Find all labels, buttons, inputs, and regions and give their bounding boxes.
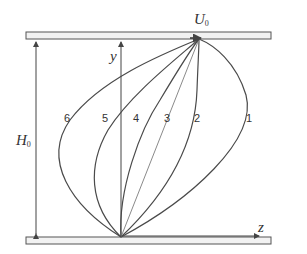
gap-height-subscript: 0 xyxy=(27,140,31,149)
profile-curve-5 xyxy=(94,39,199,237)
top-plate xyxy=(26,32,271,39)
top-velocity-label: U0 xyxy=(194,12,209,28)
z-axis-label: z xyxy=(258,220,264,235)
curve-label-2: 2 xyxy=(194,113,200,124)
y-axis-label: y xyxy=(110,49,117,64)
top-velocity-symbol: U xyxy=(194,11,205,27)
curve-label-4: 4 xyxy=(133,113,139,124)
bottom-plate xyxy=(26,237,271,244)
gap-height-symbol: H xyxy=(16,132,27,148)
diagram-svg xyxy=(0,0,307,254)
diagram-canvas: U0 y H0 z 1 2 3 4 5 6 xyxy=(0,0,307,254)
profile-curve-6 xyxy=(59,39,199,237)
curve-label-1: 1 xyxy=(246,113,252,124)
curve-label-5: 5 xyxy=(102,113,108,124)
gap-height-label: H0 xyxy=(16,133,31,149)
top-velocity-subscript: 0 xyxy=(205,19,209,28)
curve-label-3: 3 xyxy=(164,113,170,124)
curve-label-6: 6 xyxy=(64,113,70,124)
profile-curve-3 xyxy=(121,39,199,237)
